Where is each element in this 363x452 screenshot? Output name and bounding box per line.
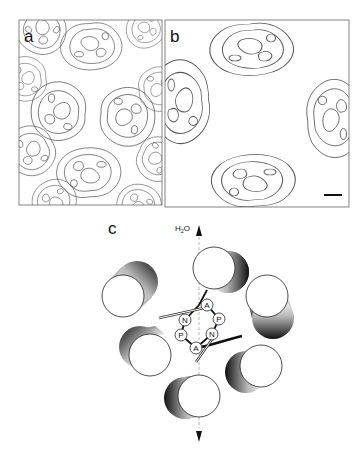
- figure: a b c H2O: [0, 0, 363, 452]
- arrow-down-icon: [196, 431, 202, 442]
- svg-text:N: N: [209, 330, 215, 339]
- residue-n-1: N: [206, 328, 218, 340]
- panel-label-a: a: [24, 27, 34, 46]
- svg-text:A: A: [204, 301, 210, 310]
- helix-right: [246, 275, 294, 339]
- helix-lower-right: [225, 345, 282, 393]
- helix-top: [193, 247, 249, 293]
- helix-bottom: [164, 375, 220, 419]
- panel-label-c: c: [108, 219, 117, 238]
- panel-b-frame: [165, 20, 349, 207]
- arrow-up-icon: [196, 225, 202, 236]
- svg-text:N: N: [182, 316, 188, 325]
- residue-p-1: P: [213, 313, 225, 325]
- helix-upper-left: [102, 261, 158, 317]
- residue-p-2: P: [175, 329, 187, 341]
- panel-c: c H2O: [102, 219, 294, 442]
- residue-a-2: A: [190, 342, 202, 354]
- panel-a: a: [0, 0, 187, 233]
- helix-left: [119, 326, 171, 376]
- svg-text:P: P: [178, 331, 183, 340]
- residue-a-1: A: [201, 299, 213, 311]
- residue-n-2: N: [179, 314, 191, 326]
- svg-text:A: A: [193, 344, 199, 353]
- panel-b: b: [152, 20, 362, 207]
- svg-text:P: P: [216, 315, 221, 324]
- water-label: H2O: [175, 224, 190, 234]
- panel-label-b: b: [170, 27, 179, 46]
